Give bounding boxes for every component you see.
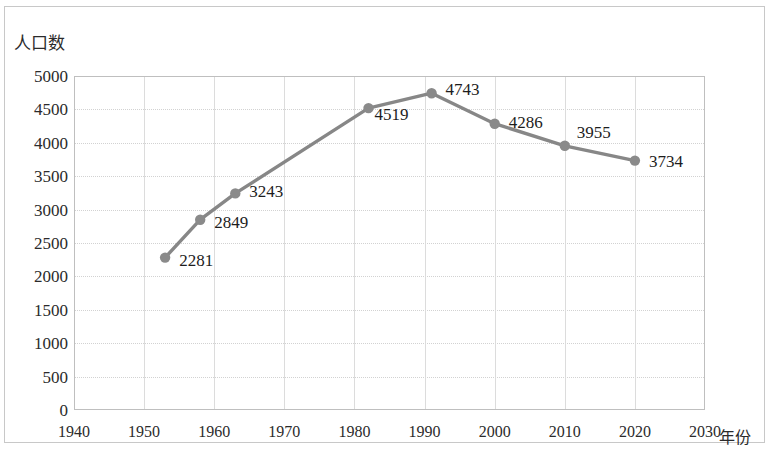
x-axis-tick-label: 1980 bbox=[320, 424, 388, 440]
population-line-chart: 人口数 050010001500200025003000350040004500… bbox=[0, 0, 771, 457]
y-gridline bbox=[75, 276, 704, 277]
data-point-label: 2849 bbox=[214, 214, 248, 231]
x-axis-tick-label: 2020 bbox=[601, 424, 669, 440]
y-axis-tick-label: 3500 bbox=[8, 168, 68, 185]
y-gridline bbox=[75, 343, 704, 344]
y-axis-tick-label: 4000 bbox=[8, 135, 68, 152]
x-axis-tick-label: 2000 bbox=[461, 424, 529, 440]
data-point-label: 3955 bbox=[577, 124, 611, 141]
data-point-label: 4286 bbox=[509, 114, 543, 131]
x-gridline bbox=[144, 77, 145, 409]
x-gridline bbox=[354, 77, 355, 409]
x-gridline bbox=[635, 77, 636, 409]
x-axis-tick-label: 2010 bbox=[531, 424, 599, 440]
y-axis-tick-label: 2500 bbox=[8, 235, 68, 252]
x-gridline bbox=[565, 77, 566, 409]
data-point-label: 2281 bbox=[179, 252, 213, 269]
y-axis-title: 人口数 bbox=[14, 29, 65, 54]
y-axis-tick-label: 5000 bbox=[8, 68, 68, 85]
x-axis-tick-label: 1940 bbox=[40, 424, 108, 440]
y-axis-tick-label: 4500 bbox=[8, 101, 68, 118]
x-gridline bbox=[214, 77, 215, 409]
y-gridline bbox=[75, 377, 704, 378]
y-gridline bbox=[75, 176, 704, 177]
y-gridline bbox=[75, 310, 704, 311]
x-axis-tick-label: 1950 bbox=[110, 424, 178, 440]
x-axis-tick-label: 1970 bbox=[250, 424, 318, 440]
data-point-label: 3243 bbox=[249, 183, 283, 200]
y-axis-tick-label: 1500 bbox=[8, 302, 68, 319]
y-gridline bbox=[75, 143, 704, 144]
y-axis-tick-label: 0 bbox=[8, 402, 68, 419]
x-axis-title: 年份 bbox=[719, 424, 751, 448]
x-axis-tick-label: 1990 bbox=[391, 424, 459, 440]
x-gridline bbox=[495, 77, 496, 409]
y-axis-tick-label: 500 bbox=[8, 369, 68, 386]
data-point-label: 4743 bbox=[446, 81, 480, 98]
x-gridline bbox=[284, 77, 285, 409]
y-axis-tick-label: 1000 bbox=[8, 335, 68, 352]
y-gridline bbox=[75, 210, 704, 211]
y-axis-tick-label: 3000 bbox=[8, 202, 68, 219]
y-gridline bbox=[75, 243, 704, 244]
x-axis-tick-label: 1960 bbox=[180, 424, 248, 440]
y-axis-tick-label: 2000 bbox=[8, 268, 68, 285]
data-point-label: 3734 bbox=[649, 153, 683, 170]
data-point-label: 4519 bbox=[374, 106, 408, 123]
x-gridline bbox=[425, 77, 426, 409]
